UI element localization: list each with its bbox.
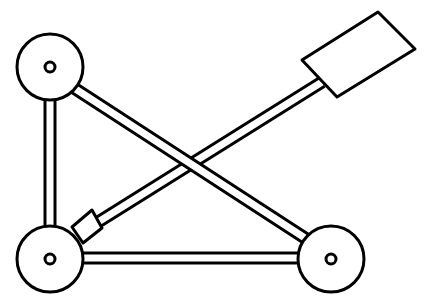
- wheel-hub-icon: [45, 62, 55, 72]
- wheel-top-left: [17, 34, 83, 100]
- wheel-hub-icon: [326, 254, 336, 264]
- catapult-diagram: [0, 0, 428, 307]
- throwing-arm-bar-fill: [95, 82, 322, 224]
- wheel-bottom-right: [298, 226, 364, 292]
- throwing-arm: [95, 82, 322, 224]
- wheel-hub-icon: [45, 254, 55, 264]
- throwing-arm-bar: [95, 82, 322, 224]
- diagram-svg: [0, 0, 428, 307]
- wheel-bottom-left: [17, 226, 83, 292]
